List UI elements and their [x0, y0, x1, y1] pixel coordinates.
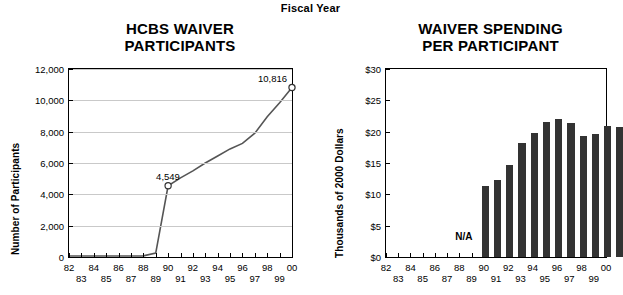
x-tick-label: 91	[485, 273, 507, 284]
x-tick-label: 92	[497, 262, 519, 273]
x-tick-label: 83	[70, 273, 92, 284]
x-tick-label: 89	[145, 273, 167, 284]
x-tick-mark	[230, 253, 231, 257]
x-tick-mark	[242, 253, 243, 257]
x-tick-label: 87	[436, 273, 458, 284]
gridline	[69, 69, 292, 70]
y-tick-label: $5	[339, 220, 381, 231]
y-tick-label: $25	[339, 95, 381, 106]
bar	[567, 123, 574, 257]
x-tick-label: 85	[412, 273, 434, 284]
gridline	[69, 163, 292, 164]
y-tick-mark	[69, 132, 73, 133]
y-tick-mark	[69, 257, 73, 258]
x-tick-mark	[267, 253, 268, 257]
x-tick-label: 98	[256, 262, 278, 273]
x-tick-mark	[447, 253, 448, 257]
x-tick-label: 97	[244, 273, 266, 284]
x-tick-label: 95	[534, 273, 556, 284]
x-tick-label: 86	[108, 262, 130, 273]
y-tick-mark	[69, 163, 73, 164]
x-tick-mark	[423, 253, 424, 257]
gridline	[69, 226, 292, 227]
x-tick-mark	[106, 253, 107, 257]
y-tick-mark	[386, 100, 390, 101]
y-tick-label: $20	[339, 126, 381, 137]
y-tick-label: 10,000	[22, 95, 64, 106]
x-tick-label: 99	[269, 273, 291, 284]
x-tick-mark	[435, 253, 436, 257]
x-tick-label: 96	[231, 262, 253, 273]
x-tick-mark	[69, 253, 70, 257]
y-tick-label: $30	[339, 64, 381, 75]
y-tick-mark	[69, 100, 73, 101]
x-tick-mark	[398, 253, 399, 257]
x-tick-label: 83	[387, 273, 409, 284]
y-tick-label: 0	[22, 252, 64, 263]
x-tick-mark	[280, 253, 281, 257]
participants-line	[69, 88, 292, 257]
y-tick-label: 4,000	[22, 189, 64, 200]
x-tick-mark	[255, 253, 256, 257]
data-label: 4,549	[156, 171, 180, 182]
x-tick-label: 96	[546, 262, 568, 273]
y-tick-mark	[386, 132, 390, 133]
x-tick-label: 86	[424, 262, 446, 273]
x-tick-label: 84	[399, 262, 421, 273]
y-tick-label: 6,000	[22, 158, 64, 169]
bar	[604, 126, 611, 257]
x-tick-label: 90	[473, 262, 495, 273]
y-tick-mark	[386, 226, 390, 227]
x-tick-mark	[181, 253, 182, 257]
x-tick-mark	[193, 253, 194, 257]
right-chart-title: WAIVER SPENDING PER PARTICIPANT	[368, 20, 613, 54]
x-tick-label: 00	[281, 262, 303, 273]
x-tick-mark	[81, 253, 82, 257]
x-tick-mark	[94, 253, 95, 257]
right-chart-title-line2: PER PARTICIPANT	[368, 37, 613, 54]
x-tick-label: 84	[83, 262, 105, 273]
bar	[518, 143, 525, 257]
gridline	[69, 194, 292, 195]
right-plot-area	[385, 68, 607, 258]
gridline	[69, 100, 292, 101]
x-tick-mark	[131, 253, 132, 257]
x-tick-label: 94	[522, 262, 544, 273]
x-tick-label: 92	[182, 262, 204, 273]
y-tick-mark	[69, 226, 73, 227]
gridline	[69, 132, 292, 133]
y-tick-label: 8,000	[22, 126, 64, 137]
x-tick-label: 85	[95, 273, 117, 284]
x-tick-mark	[292, 253, 293, 257]
left-chart-title-line2: PARTICIPANTS	[60, 37, 300, 54]
x-tick-mark	[410, 253, 411, 257]
x-tick-mark	[472, 253, 473, 257]
x-tick-label: 87	[120, 273, 142, 284]
bar	[543, 122, 550, 257]
fiscal-year-label: Fiscal Year	[0, 2, 621, 14]
x-tick-label: 91	[170, 273, 192, 284]
x-tick-label: 99	[583, 273, 605, 284]
x-tick-label: 88	[448, 262, 470, 273]
x-tick-mark	[156, 253, 157, 257]
x-tick-mark	[205, 253, 206, 257]
bar	[592, 134, 599, 257]
data-label: 10,816	[258, 73, 287, 84]
x-tick-label: 89	[461, 273, 483, 284]
left-chart-title-line1: HCBS WAIVER	[60, 20, 300, 37]
left-plot-area	[68, 68, 293, 258]
na-label: N/A	[455, 231, 472, 242]
x-tick-mark	[386, 253, 387, 257]
x-tick-label: 97	[558, 273, 580, 284]
y-tick-label: $10	[339, 189, 381, 200]
x-tick-mark	[143, 253, 144, 257]
x-tick-label: 98	[571, 262, 593, 273]
left-chart-title: HCBS WAIVER PARTICIPANTS	[60, 20, 300, 54]
right-chart-title-line1: WAIVER SPENDING	[368, 20, 613, 37]
y-tick-label: $0	[339, 252, 381, 263]
x-tick-label: 95	[219, 273, 241, 284]
x-tick-label: 82	[375, 262, 397, 273]
y-tick-label: $15	[339, 158, 381, 169]
y-tick-label: 12,000	[22, 64, 64, 75]
